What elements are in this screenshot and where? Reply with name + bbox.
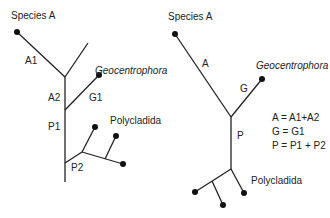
right-polycladida-label: Polycladida [251,175,302,186]
legend-g: G = G1 [272,126,305,137]
branch-g1-label: G1 [89,92,102,103]
branch-a1-label: A1 [25,55,37,66]
right-geocentrophora-label: Geocentrophora [256,60,328,71]
right-tree-lines [175,34,262,205]
left-tree-tips [14,29,126,167]
branch-p-label: P [237,130,244,141]
branch-p1-label: P1 [48,121,60,132]
branch-g-label: G [240,83,248,94]
left-species-a-label: Species A [11,10,55,21]
legend-p: P = P1 + P2 [272,140,326,151]
branch-a2-label: A2 [48,92,60,103]
branch-p2-label: P2 [71,162,83,173]
left-polycladida-label: Polycladida [110,115,161,126]
legend-a: A = A1+A2 [272,112,319,123]
right-species-a-label: Species A [168,11,212,22]
left-geocentrophora-label: Geocentrophora [95,65,167,76]
branch-a-label: A [202,58,209,69]
